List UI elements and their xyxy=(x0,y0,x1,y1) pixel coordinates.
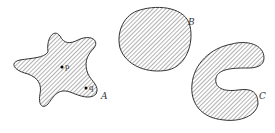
region-a-label: A xyxy=(101,92,108,101)
point-q xyxy=(85,87,88,90)
region-a-star xyxy=(14,33,97,106)
region-diagram xyxy=(0,0,275,133)
point-q-label: q xyxy=(89,85,93,92)
region-b-convex xyxy=(119,7,191,71)
point-p xyxy=(61,66,64,69)
point-p-label: p xyxy=(65,64,69,71)
region-b-label: B xyxy=(188,18,195,27)
region-c-crescent xyxy=(192,43,264,121)
region-c-label: C xyxy=(259,92,266,101)
